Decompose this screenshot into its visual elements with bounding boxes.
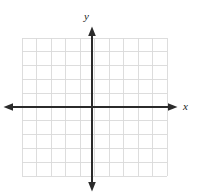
y-axis-up-arrowhead [88,27,96,37]
x-axis [4,103,178,111]
coordinate-plane-svg [0,0,201,195]
y-axis-label: y [84,11,89,22]
x-axis-right-arrowhead [168,103,178,111]
coordinate-plane-figure: y x [0,0,201,195]
x-axis-left-arrowhead [4,103,14,111]
x-axis-label: x [183,101,188,112]
y-axis-down-arrowhead [88,182,96,192]
